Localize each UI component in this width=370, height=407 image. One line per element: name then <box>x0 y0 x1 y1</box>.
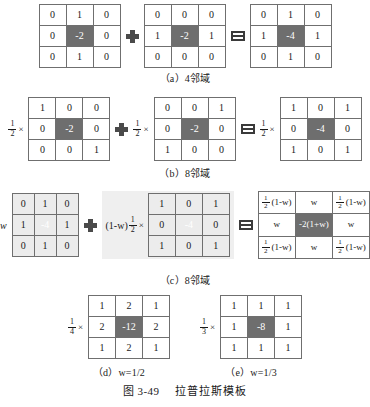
matrix-cell: 0 <box>209 140 235 160</box>
matrix-cell: 0 <box>203 215 229 235</box>
equation-row-d: 1 4 × 1 2 1 2 -12 2 1 2 1 <box>68 295 170 359</box>
matrix-cell: 1 <box>203 194 229 214</box>
fraction: 1 2 <box>262 195 270 211</box>
plus-icon <box>84 219 97 232</box>
one-minus-w-label: (1-w) <box>106 220 128 231</box>
matrix-cell: 0 <box>13 236 34 256</box>
matrix-cell: 0 <box>251 5 277 25</box>
fraction-denominator: 3 <box>200 327 208 336</box>
matrix-cell: 1 <box>143 338 169 358</box>
matrix-cell: 1 <box>335 98 361 118</box>
matrix-cell: 1 <box>221 338 247 358</box>
coefficient-b3: 1 2 × <box>260 120 275 138</box>
matrix-a2: 0 0 0 1 -2 1 0 0 0 <box>144 4 226 68</box>
matrix-cell: 0 <box>199 5 225 25</box>
fraction: 1 3 <box>200 318 208 336</box>
fraction: 1 2 <box>336 195 344 211</box>
times-symbol: × <box>142 124 148 134</box>
fraction: 1 2 <box>8 120 16 138</box>
matrix-cell-center: -8 <box>248 317 274 337</box>
matrix-c1: 0 1 0 1 -4 1 0 1 0 <box>12 193 79 257</box>
coefficient-d: 1 4 × <box>68 318 83 336</box>
fraction-denominator: 2 <box>133 129 141 138</box>
coefficient-b2: 1 2 × <box>133 120 148 138</box>
figure-title: 拉普拉斯模板 <box>175 385 247 397</box>
fraction-numerator: 1 <box>262 195 270 202</box>
matrix-cell: 2 <box>116 338 142 358</box>
matrix-cell: 2 <box>116 296 142 316</box>
matrix-cell: 0 <box>251 47 277 67</box>
matrix-cell: 1 <box>248 296 274 316</box>
plus-icon <box>115 123 128 136</box>
coefficient-e: 1 3 × <box>200 318 215 336</box>
fraction-denominator: 2 <box>129 225 137 234</box>
matrix-cell: 0 <box>281 119 307 139</box>
matrix-c2: 1 0 1 0 -4 0 1 0 1 <box>148 193 230 257</box>
matrix-cell: 1 <box>335 140 361 160</box>
coefficient-c2: (1-w) 1 2 × <box>106 216 144 234</box>
matrix-cell: 0 <box>182 140 208 160</box>
fraction: 1 2 <box>336 239 344 255</box>
caption-e: （e）w=1/3 <box>225 364 277 379</box>
fraction: 1 2 <box>260 120 268 138</box>
matrix-cell: 0 <box>40 5 66 25</box>
coefficient-b1: 1 2 × <box>8 120 23 138</box>
matrix-cell: 0 <box>308 140 334 160</box>
matrix-cell: 1 <box>29 98 55 118</box>
times-symbol: × <box>269 124 275 134</box>
fraction-denominator: 2 <box>262 247 270 255</box>
matrix-cell: 1 <box>149 194 175 214</box>
fraction: 1 2 <box>262 239 270 255</box>
fraction-denominator: 2 <box>262 202 270 210</box>
matrix-c3: 1 2 (1-w) w 1 2 (1-w) w -2(1+w) w <box>258 191 370 259</box>
matrix-cell: 1 <box>89 296 115 316</box>
fraction: 1 2 <box>133 120 141 138</box>
matrix-cell: 0 <box>13 194 34 214</box>
matrix-cell-center: -2 <box>67 26 93 46</box>
matrix-cell: 0 <box>56 140 82 160</box>
matrix-cell: 0 <box>94 26 120 46</box>
matrix-cell: 0 <box>172 5 198 25</box>
matrix-cell: 0 <box>172 47 198 67</box>
caption-a: （a）4邻域 <box>0 70 370 85</box>
expression-rest: (1-w) <box>272 243 292 252</box>
matrix-d: 1 2 1 2 -12 2 1 2 1 <box>88 295 170 359</box>
matrix-cell: 1 <box>275 296 301 316</box>
matrix-cell: 0 <box>305 47 331 67</box>
times-symbol: × <box>77 322 83 332</box>
matrix-cell: 0 <box>155 98 181 118</box>
matrix-cell: 1 2 (1-w) <box>333 237 369 258</box>
matrix-cell: 0 <box>199 47 225 67</box>
matrix-cell: 0 <box>155 119 181 139</box>
times-symbol: × <box>17 124 23 134</box>
matrix-cell: 1 <box>278 5 304 25</box>
matrix-cell-center: -12 <box>116 317 142 337</box>
matrix-cell: 1 2 (1-w) <box>259 192 295 213</box>
matrix-cell-center: -2 <box>182 119 208 139</box>
fraction-numerator: 1 <box>260 120 268 128</box>
fraction-denominator: 2 <box>336 247 344 255</box>
fraction-numerator: 1 <box>129 216 137 224</box>
matrix-cell: 1 <box>57 215 78 235</box>
matrix-b3: 1 0 1 0 -4 0 1 0 1 <box>280 97 362 161</box>
figure-number: 图 3-49 <box>123 385 160 397</box>
matrix-cell: 1 2 (1-w) <box>333 192 369 213</box>
matrix-a3: 0 1 0 1 -4 1 0 1 0 <box>250 4 332 68</box>
matrix-cell: 0 <box>176 236 202 256</box>
matrix-cell: 1 <box>281 98 307 118</box>
matrix-cell: 1 <box>275 338 301 358</box>
fraction: 1 2 <box>129 216 137 234</box>
matrix-cell: 1 <box>35 236 56 256</box>
caption-c: （c）8邻域 <box>0 272 370 287</box>
matrix-cell: 0 <box>149 215 175 235</box>
matrix-cell-center: -4 <box>176 215 202 235</box>
matrix-cell: w <box>296 192 332 213</box>
equation-row-a: 0 1 0 0 -2 0 0 1 0 0 0 0 1 -2 1 0 0 0 0 … <box>0 4 370 68</box>
matrix-cell: 0 <box>145 5 171 25</box>
matrix-a1: 0 1 0 0 -2 0 0 1 0 <box>39 4 121 68</box>
matrix-cell: 1 <box>221 317 247 337</box>
plus-icon <box>126 30 139 43</box>
equals-icon <box>241 124 255 134</box>
matrix-cell: 0 <box>57 194 78 214</box>
times-symbol: × <box>138 220 144 230</box>
